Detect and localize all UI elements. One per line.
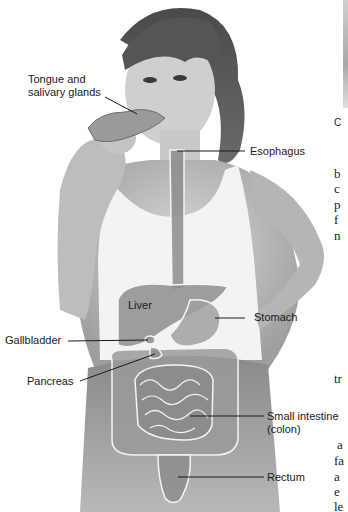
text-fragment: e — [334, 484, 340, 500]
caption-fragment: C — [334, 115, 341, 131]
text-fragment: a — [334, 469, 340, 485]
label-esophagus: Esophagus — [250, 145, 305, 158]
text-fragment: tr — [334, 371, 342, 387]
label-tongue-line2: salivary glands — [28, 86, 101, 99]
label-gallbladder: Gallbladder — [5, 334, 61, 347]
small-intestine-organ — [135, 365, 213, 440]
esophagus-organ — [170, 150, 184, 290]
label-small-intestine-line2: (colon) — [267, 423, 301, 436]
text-fragment: a — [337, 437, 343, 453]
label-stomach: Stomach — [254, 311, 297, 324]
text-fragment: b — [334, 166, 341, 182]
label-pancreas: Pancreas — [27, 375, 73, 388]
text-fragment: fa — [334, 453, 344, 469]
adjacent-photo-fragment — [343, 0, 348, 108]
text-fragment: n — [334, 228, 341, 244]
label-small-intestine-line1: Small intestine — [267, 410, 339, 423]
text-fragment: f — [334, 212, 338, 228]
label-liver: Liver — [128, 299, 152, 312]
text-fragment: le — [334, 499, 343, 512]
text-fragment: p — [334, 197, 341, 213]
label-rectum: Rectum — [267, 471, 305, 484]
label-tongue-line1: Tongue and — [28, 73, 86, 86]
text-fragment: c — [334, 181, 340, 197]
